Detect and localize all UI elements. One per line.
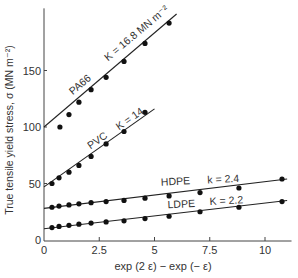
data-point: [88, 87, 93, 92]
x-axis-label: exp (2 ε) − exp (− ε): [114, 260, 211, 272]
series-name-label: PA66: [66, 72, 93, 97]
data-point: [197, 190, 202, 195]
data-point: [121, 218, 126, 223]
data-point: [88, 200, 93, 205]
data-point: [76, 100, 81, 105]
series-labels: PA66K = 16.8 MN m⁻²PVCK = 14HDPEk = 2.4L…: [66, 2, 243, 210]
data-point: [66, 202, 71, 207]
data-point: [104, 219, 109, 224]
series-pvc: [44, 109, 155, 187]
series-name-label: HDPE: [161, 174, 191, 188]
data-point: [197, 209, 202, 214]
data-point: [142, 41, 147, 46]
series-name-label: PVC: [85, 129, 110, 151]
series-k-label: k = 2.4: [207, 172, 240, 186]
x-tick-label: 0: [41, 244, 47, 256]
axes: 02.557.510050100150: [23, 8, 292, 256]
y-tick-label: 0: [35, 234, 41, 246]
data-point: [88, 154, 93, 159]
data-point: [279, 176, 284, 181]
chart: 02.557.510050100150 PA66K = 16.8 MN m⁻²P…: [0, 0, 298, 278]
data-point: [121, 198, 126, 203]
data-point: [88, 220, 93, 225]
series-k-label: K = 2.2: [209, 193, 243, 207]
data-point: [104, 75, 109, 80]
data-point: [56, 175, 61, 180]
y-tick-label: 100: [23, 121, 41, 133]
data-point: [142, 216, 147, 221]
fit-line: [44, 14, 177, 127]
y-axis-label: True tensile yield stress, σ (MN m⁻²): [3, 45, 15, 215]
y-tick-label: 150: [23, 65, 41, 77]
x-tick-label: 2.5: [92, 244, 107, 256]
data-point: [66, 223, 71, 228]
x-tick-label: 7.5: [202, 244, 217, 256]
data-point: [76, 163, 81, 168]
data-point: [76, 201, 81, 206]
data-point: [66, 112, 71, 117]
fit-line: [44, 109, 155, 187]
series-k-label: K = 16.8 MN m⁻²: [102, 2, 171, 63]
data-point: [104, 199, 109, 204]
series-pa66: [44, 14, 177, 130]
series-name-label: LDPE: [167, 197, 195, 210]
x-tick-label: 5: [151, 244, 157, 256]
data-point: [76, 222, 81, 227]
data-point: [57, 124, 62, 129]
data-point: [236, 185, 241, 190]
data-point: [49, 181, 54, 186]
data-point: [142, 196, 147, 201]
data-point: [49, 225, 54, 230]
data-point: [121, 59, 126, 64]
x-tick-label: 10: [259, 244, 271, 256]
data-point: [166, 214, 171, 219]
data-point: [56, 224, 61, 229]
data-point: [166, 20, 171, 25]
data-point: [279, 199, 284, 204]
data-point: [49, 205, 54, 210]
data-point: [66, 170, 71, 175]
data-point: [56, 204, 61, 209]
series-layer: [44, 14, 287, 230]
y-tick-label: 50: [29, 178, 41, 190]
